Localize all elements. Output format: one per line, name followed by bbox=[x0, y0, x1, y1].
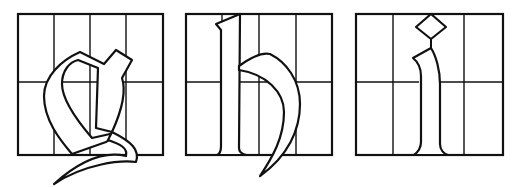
calligraphy-figure: g h i bbox=[0, 0, 524, 187]
grid-g bbox=[18, 14, 163, 155]
panel-i bbox=[356, 14, 503, 155]
panel-h bbox=[186, 14, 332, 176]
grid-h bbox=[186, 14, 332, 155]
letter-i-glyph bbox=[413, 14, 448, 155]
letter-h-glyph bbox=[216, 14, 300, 176]
panel-g bbox=[18, 14, 163, 184]
i-dot-diamond bbox=[416, 14, 446, 39]
